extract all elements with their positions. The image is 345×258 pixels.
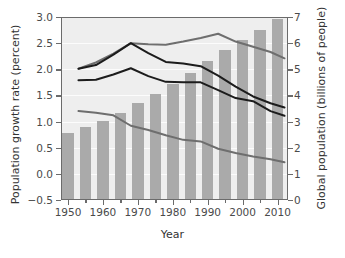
y-axis-left-tick-label: 2.5 <box>36 37 53 49</box>
x-axis-tick <box>138 200 139 205</box>
y-axis-left-tick-label: 3.0 <box>36 11 53 23</box>
y-axis-left-tick <box>56 17 61 18</box>
line-series <box>78 68 284 116</box>
x-axis-tick-label: 2010 <box>264 206 291 218</box>
y-axis-right-tick-label: 1 <box>294 168 301 180</box>
x-axis-tick <box>243 200 244 205</box>
y-axis-left-tick-label: 0.5 <box>36 142 53 154</box>
y-axis-left-tick <box>56 69 61 70</box>
x-axis-tick <box>208 200 209 205</box>
y-axis-right-tick <box>288 148 293 149</box>
y-axis-left-tick-label: 1.0 <box>36 116 53 128</box>
x-axis-tick-label: 1980 <box>159 206 186 218</box>
y-axis-right-tick <box>288 174 293 175</box>
x-axis-tick-label: 2000 <box>229 206 256 218</box>
y-axis-right-tick-label: 0 <box>294 194 301 206</box>
x-axis-title: Year <box>0 228 345 241</box>
line-series <box>78 111 284 162</box>
line-series-group <box>61 17 288 200</box>
y-axis-left-tick-label: −0.5 <box>28 194 54 206</box>
y-axis-left-tick-label: 2.0 <box>36 63 53 75</box>
y-axis-right-tick-label: 5 <box>294 63 301 75</box>
x-axis-tick-label: 1960 <box>90 206 117 218</box>
y-axis-right-tick <box>288 95 293 96</box>
x-axis-labels: 1950196019701980199020002010 <box>0 206 345 222</box>
x-axis-tick-label: 1970 <box>124 206 151 218</box>
y-axis-right-tick-label: 6 <box>294 37 301 49</box>
plot-area <box>61 17 288 200</box>
x-axis-tick <box>278 200 279 205</box>
x-axis-minor-tick <box>225 200 226 203</box>
y-axis-left-tick-label: 0.0 <box>36 168 53 180</box>
x-axis-minor-tick <box>85 200 86 203</box>
y-axis-right-tick <box>288 69 293 70</box>
y-axis-right-tick-label: 7 <box>294 11 301 23</box>
y-axis-left-tick <box>56 43 61 44</box>
y-axis-left-title: Population growth rate (percent) <box>9 20 22 210</box>
x-axis-minor-tick <box>260 200 261 203</box>
y-axis-right-tick <box>288 200 293 201</box>
y-axis-left-tick <box>56 95 61 96</box>
y-axis-right-title: Global population (billions of people) <box>315 20 328 210</box>
x-axis-minor-tick <box>155 200 156 203</box>
x-axis-tick <box>103 200 104 205</box>
population-growth-chart: −0.50.00.51.01.52.02.53.0 01234567 19501… <box>0 0 345 258</box>
x-axis-tick <box>173 200 174 205</box>
y-axis-right-tick-label: 4 <box>294 89 301 101</box>
x-axis-minor-tick <box>190 200 191 203</box>
y-axis-right-tick-label: 3 <box>294 116 301 128</box>
y-axis-right-tick <box>288 43 293 44</box>
x-axis-tick-label: 1990 <box>194 206 221 218</box>
y-axis-right-tick <box>288 17 293 18</box>
y-axis-left-tick <box>56 148 61 149</box>
y-axis-left-tick <box>56 200 61 201</box>
y-axis-left-tick-label: 1.5 <box>36 89 53 101</box>
x-axis-minor-tick <box>120 200 121 203</box>
y-axis-right-tick <box>288 122 293 123</box>
x-axis-tick-label: 1950 <box>55 206 82 218</box>
y-axis-right-tick-label: 2 <box>294 142 301 154</box>
x-axis-tick <box>68 200 69 205</box>
y-axis-left-tick <box>56 174 61 175</box>
y-axis-left-tick <box>56 122 61 123</box>
